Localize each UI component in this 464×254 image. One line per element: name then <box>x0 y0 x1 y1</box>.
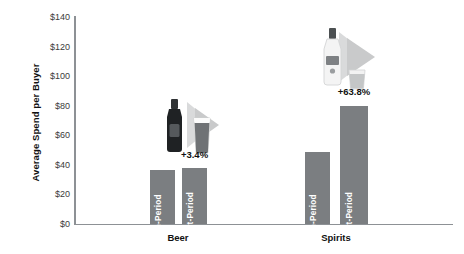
y-axis-tick-20: $20 <box>26 189 70 199</box>
y-axis-tick-group: $140 $120 $100 $80 $60 $40 $20 $0 <box>20 0 70 254</box>
beer-bottle-and-glass-icon <box>161 98 229 156</box>
spirits-growth-label: +63.8% <box>338 86 371 97</box>
y-axis-tick-80: $80 <box>26 101 70 111</box>
y-axis-tick-60: $60 <box>26 130 70 140</box>
y-axis-tick-140: $140 <box>26 12 70 22</box>
y-axis-tick-120: $120 <box>26 42 70 52</box>
bar-beer-post-period[interactable]: Post-Period <box>182 168 207 224</box>
spirits-bottle-and-tumbler-icon <box>313 26 385 90</box>
y-axis-line <box>74 16 76 225</box>
bar-label-beer-pre-period: Pre-Period <box>154 194 163 237</box>
bar-beer-pre-period[interactable]: Pre-Period <box>150 170 175 224</box>
bar-label-spirits-pre-period: Pre-Period <box>309 194 318 237</box>
x-axis-line <box>74 224 453 226</box>
bar-chart: Average Spend per Buyer $140 $120 $100 $… <box>0 0 464 254</box>
bar-spirits-post-period[interactable]: Post-Period <box>340 106 368 224</box>
x-axis-category-beer: Beer <box>167 232 188 243</box>
y-axis-tick-100: $100 <box>26 71 70 81</box>
bar-spirits-pre-period[interactable]: Pre-Period <box>305 152 330 224</box>
beer-growth-label: +3.4% <box>181 149 208 160</box>
y-axis-tick-40: $40 <box>26 160 70 170</box>
y-axis-tick-0: $0 <box>26 219 70 229</box>
x-axis-category-spirits: Spirits <box>321 232 351 243</box>
